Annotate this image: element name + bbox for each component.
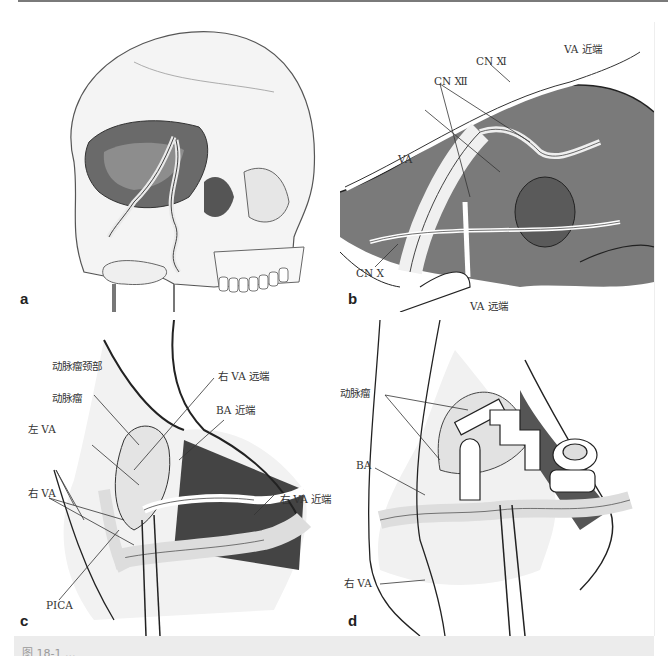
figure-caption: 图 18-1 ...: [22, 644, 75, 656]
panel-letter-b: b: [348, 290, 357, 307]
top-rule: [18, 0, 668, 2]
label-ba: BA: [356, 460, 371, 471]
label-right-va: 右 VA: [28, 488, 56, 499]
skull-illustration: [14, 22, 334, 312]
aneurysm-clipped-illustration: [340, 320, 654, 636]
panel-letter-c: c: [20, 612, 28, 629]
label-ba-proximal: BA 近端: [216, 405, 255, 416]
label-cn-xii: CN Ⅻ: [434, 76, 468, 87]
label-left-va: 左 VA: [28, 424, 56, 435]
panel-b: VA 近端 CN Ⅺ CN Ⅻ VA CN Ⅹ VA 远端 b: [340, 22, 654, 312]
label-right-va-distal: 右 VA 远端: [218, 371, 269, 382]
label-va: VA: [398, 154, 412, 165]
panel-letter-a: a: [20, 290, 28, 307]
panel-d: 动脉瘤 BA 右 VA d: [340, 320, 654, 636]
label-aneurysm: 动脉瘤: [52, 393, 82, 404]
label-right-va: 右 VA: [344, 578, 372, 589]
label-right-va-proximal: 右 VA 近端: [280, 494, 331, 505]
label-cn-xi: CN Ⅺ: [476, 56, 507, 67]
label-cn-x: CN Ⅹ: [356, 268, 384, 279]
label-pica: PICA: [46, 600, 73, 611]
label-va-distal: VA 远端: [470, 301, 508, 312]
label-aneurysm-neck: 动脉瘤颈部: [52, 361, 102, 372]
figure-caption-band: 图 18-1 ...: [14, 636, 654, 656]
label-aneurysm: 动脉瘤: [340, 388, 370, 399]
panel-letter-d: d: [348, 612, 357, 629]
panel-c: 动脉瘤颈部 右 VA 远端 动脉瘤 BA 近端 左 VA 右 VA 右 VA 近…: [14, 320, 334, 636]
panel-a: a: [14, 22, 334, 312]
label-va-proximal: VA 近端: [564, 44, 602, 55]
figure: a VA 近端 CN Ⅺ CN Ⅻ VA: [14, 22, 655, 636]
